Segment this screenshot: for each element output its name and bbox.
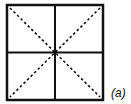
figure-label: (a): [111, 86, 126, 100]
